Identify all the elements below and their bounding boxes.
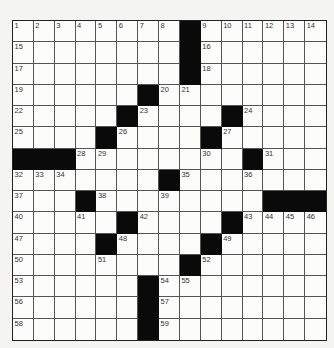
grid-cell[interactable] bbox=[201, 319, 222, 340]
grid-cell[interactable]: 36 bbox=[243, 170, 264, 191]
grid-cell[interactable] bbox=[117, 255, 138, 276]
grid-cell[interactable] bbox=[117, 149, 138, 170]
grid-cell[interactable] bbox=[243, 191, 264, 212]
grid-cell[interactable] bbox=[222, 85, 243, 106]
grid-cell[interactable]: 10 bbox=[222, 21, 243, 42]
grid-cell[interactable] bbox=[159, 212, 180, 233]
grid-cell[interactable] bbox=[284, 234, 305, 255]
grid-cell[interactable]: 45 bbox=[284, 212, 305, 233]
grid-cell[interactable] bbox=[138, 255, 159, 276]
grid-cell[interactable]: 38 bbox=[96, 191, 117, 212]
grid-cell[interactable] bbox=[263, 234, 284, 255]
grid-cell[interactable] bbox=[55, 64, 76, 85]
grid-cell[interactable] bbox=[55, 212, 76, 233]
grid-cell[interactable]: 3 bbox=[55, 21, 76, 42]
grid-cell[interactable] bbox=[76, 255, 97, 276]
grid-cell[interactable] bbox=[117, 297, 138, 318]
grid-cell[interactable] bbox=[222, 64, 243, 85]
grid-cell[interactable] bbox=[159, 42, 180, 63]
grid-cell[interactable]: 47 bbox=[13, 234, 34, 255]
grid-cell[interactable]: 54 bbox=[159, 276, 180, 297]
grid-cell[interactable] bbox=[117, 170, 138, 191]
grid-cell[interactable] bbox=[305, 106, 326, 127]
grid-cell[interactable] bbox=[76, 276, 97, 297]
grid-cell[interactable] bbox=[76, 85, 97, 106]
grid-cell[interactable] bbox=[34, 234, 55, 255]
grid-cell[interactable] bbox=[76, 64, 97, 85]
grid-cell[interactable]: 17 bbox=[13, 64, 34, 85]
grid-cell[interactable]: 12 bbox=[263, 21, 284, 42]
grid-cell[interactable] bbox=[305, 149, 326, 170]
grid-cell[interactable]: 58 bbox=[13, 319, 34, 340]
grid-cell[interactable] bbox=[159, 106, 180, 127]
grid-cell[interactable] bbox=[55, 85, 76, 106]
grid-cell[interactable]: 57 bbox=[159, 297, 180, 318]
grid-cell[interactable]: 4 bbox=[76, 21, 97, 42]
grid-cell[interactable] bbox=[284, 149, 305, 170]
grid-cell[interactable]: 55 bbox=[180, 276, 201, 297]
grid-cell[interactable]: 23 bbox=[138, 106, 159, 127]
grid-cell[interactable] bbox=[284, 64, 305, 85]
grid-cell[interactable]: 9 bbox=[201, 21, 222, 42]
grid-cell[interactable] bbox=[263, 106, 284, 127]
grid-cell[interactable]: 20 bbox=[159, 85, 180, 106]
grid-cell[interactable]: 7 bbox=[138, 21, 159, 42]
grid-cell[interactable] bbox=[180, 319, 201, 340]
grid-cell[interactable]: 48 bbox=[117, 234, 138, 255]
grid-cell[interactable]: 6 bbox=[117, 21, 138, 42]
grid-cell[interactable] bbox=[180, 149, 201, 170]
grid-cell[interactable] bbox=[55, 106, 76, 127]
grid-cell[interactable] bbox=[55, 276, 76, 297]
grid-cell[interactable]: 40 bbox=[13, 212, 34, 233]
grid-cell[interactable] bbox=[243, 64, 264, 85]
grid-cell[interactable] bbox=[263, 276, 284, 297]
grid-cell[interactable] bbox=[222, 170, 243, 191]
grid-cell[interactable] bbox=[201, 170, 222, 191]
grid-cell[interactable] bbox=[76, 234, 97, 255]
grid-cell[interactable] bbox=[159, 255, 180, 276]
grid-cell[interactable] bbox=[305, 276, 326, 297]
grid-cell[interactable] bbox=[222, 191, 243, 212]
grid-cell[interactable] bbox=[96, 85, 117, 106]
grid-cell[interactable]: 19 bbox=[13, 85, 34, 106]
grid-cell[interactable] bbox=[263, 85, 284, 106]
grid-cell[interactable]: 35 bbox=[180, 170, 201, 191]
grid-cell[interactable] bbox=[263, 64, 284, 85]
grid-cell[interactable]: 1 bbox=[13, 21, 34, 42]
grid-cell[interactable] bbox=[55, 191, 76, 212]
grid-cell[interactable] bbox=[34, 212, 55, 233]
grid-cell[interactable] bbox=[55, 297, 76, 318]
grid-cell[interactable]: 52 bbox=[201, 255, 222, 276]
grid-cell[interactable]: 25 bbox=[13, 127, 34, 148]
grid-cell[interactable]: 59 bbox=[159, 319, 180, 340]
grid-cell[interactable]: 22 bbox=[13, 106, 34, 127]
grid-cell[interactable]: 24 bbox=[243, 106, 264, 127]
grid-cell[interactable] bbox=[243, 85, 264, 106]
grid-cell[interactable] bbox=[55, 255, 76, 276]
grid-cell[interactable] bbox=[34, 106, 55, 127]
grid-cell[interactable]: 5 bbox=[96, 21, 117, 42]
grid-cell[interactable] bbox=[34, 42, 55, 63]
grid-cell[interactable]: 50 bbox=[13, 255, 34, 276]
grid-cell[interactable] bbox=[243, 297, 264, 318]
grid-cell[interactable] bbox=[305, 127, 326, 148]
grid-cell[interactable] bbox=[34, 255, 55, 276]
grid-cell[interactable] bbox=[284, 106, 305, 127]
grid-cell[interactable]: 53 bbox=[13, 276, 34, 297]
grid-cell[interactable]: 13 bbox=[284, 21, 305, 42]
grid-cell[interactable] bbox=[243, 42, 264, 63]
grid-cell[interactable] bbox=[284, 297, 305, 318]
grid-cell[interactable]: 28 bbox=[76, 149, 97, 170]
grid-cell[interactable] bbox=[243, 276, 264, 297]
grid-cell[interactable]: 37 bbox=[13, 191, 34, 212]
grid-cell[interactable] bbox=[34, 276, 55, 297]
grid-cell[interactable] bbox=[180, 212, 201, 233]
grid-cell[interactable] bbox=[201, 212, 222, 233]
grid-cell[interactable] bbox=[117, 191, 138, 212]
grid-cell[interactable] bbox=[138, 149, 159, 170]
grid-cell[interactable]: 44 bbox=[263, 212, 284, 233]
grid-cell[interactable]: 41 bbox=[76, 212, 97, 233]
grid-cell[interactable] bbox=[222, 297, 243, 318]
grid-cell[interactable] bbox=[96, 106, 117, 127]
grid-cell[interactable]: 34 bbox=[55, 170, 76, 191]
